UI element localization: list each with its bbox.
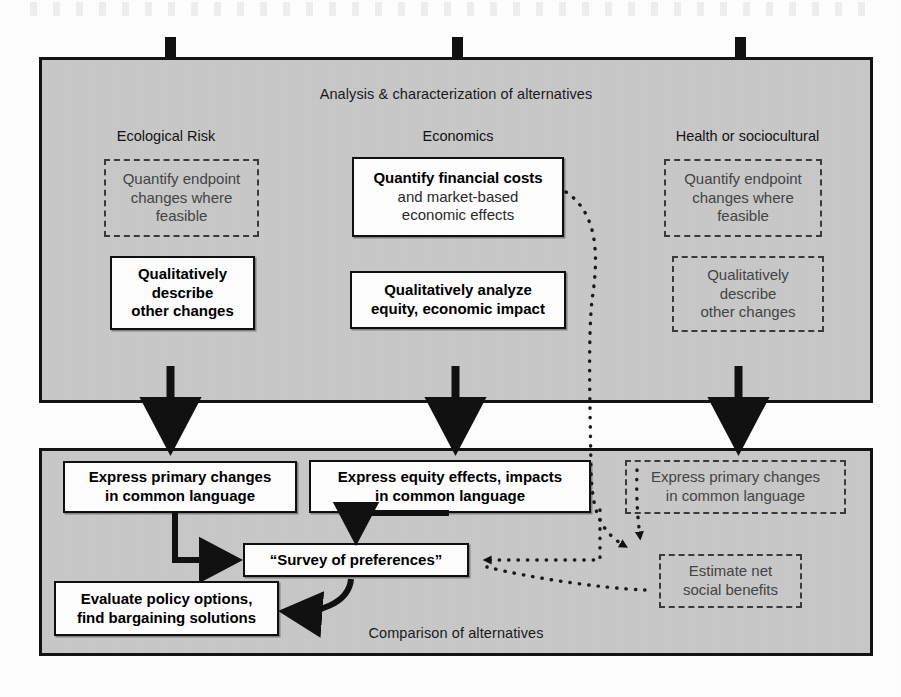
box-express-equity-effects: Express equity effects, impacts in commo… — [309, 460, 591, 513]
box-survey-of-preferences: “Survey of preferences” — [243, 543, 469, 577]
box-economics-qualitative: Qualitatively analyze equity, economic i… — [350, 271, 566, 329]
box-economics-quantify: Quantify financial costs and market-base… — [352, 157, 564, 237]
panel-analysis-caption: Analysis & characterization of alternati… — [42, 86, 870, 102]
box-estimate-net-social-benefits: Estimate net social benefits — [659, 554, 802, 608]
column-heading-economics: Economics — [368, 128, 548, 144]
box-express-primary-changes-health: Express primary changes in common langua… — [625, 460, 846, 514]
box-evaluate-policy-options: Evaluate policy options, find bargaining… — [54, 581, 279, 636]
box-eco-risk-qualitative: Qualitatively describe other changes — [110, 256, 255, 330]
box-health-qualitative: Qualitatively describe other changes — [672, 256, 824, 332]
box-express-primary-changes: Express primary changes in common langua… — [63, 461, 297, 513]
diagram-canvas: Analysis & characterization of alternati… — [0, 0, 901, 697]
box-eco-risk-quantify: Quantify endpoint changes where feasible — [104, 159, 259, 237]
page-top-artifact — [30, 2, 870, 16]
box-health-quantify: Quantify endpoint changes where feasible — [664, 159, 822, 237]
column-heading-ecological-risk: Ecological Risk — [76, 128, 256, 144]
column-heading-health: Health or sociocultural — [640, 128, 855, 144]
